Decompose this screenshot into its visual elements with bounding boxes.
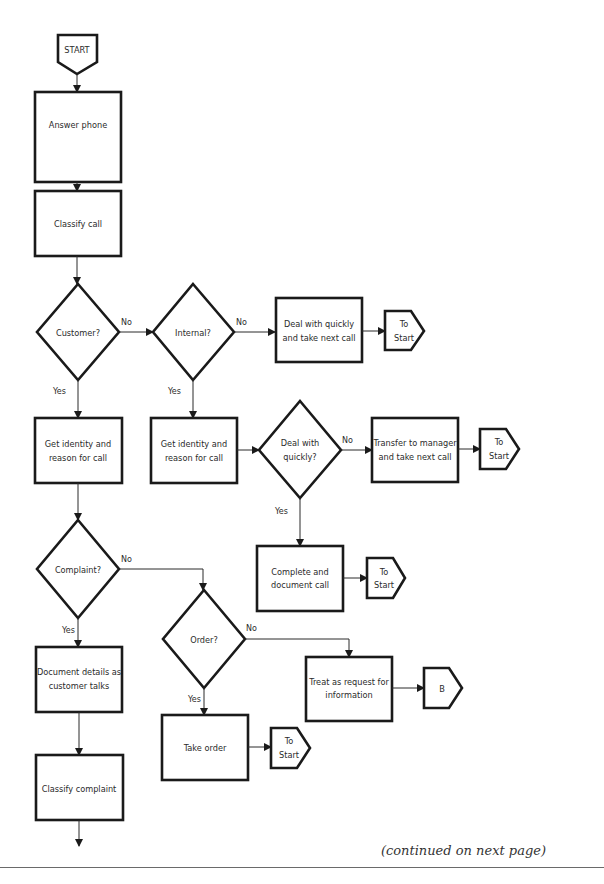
start-terminal: START: [58, 35, 97, 74]
edge-label-yes: Yes: [274, 507, 288, 516]
take-order-label: Take order: [183, 743, 227, 753]
classify-call-label: Classify call: [54, 219, 102, 229]
deal-quickly-q-line1: Deal with: [281, 438, 320, 448]
order-decision-label: Order?: [190, 635, 218, 645]
deal-quickly-line2: and take next call: [282, 333, 355, 343]
b-connector: B: [424, 668, 462, 708]
answer-phone-box: Answer phone: [35, 92, 121, 182]
deal-quickly-line1: Deal with quickly: [284, 319, 354, 329]
treat-request-box: Treat as request for information: [306, 657, 392, 721]
continued-note: (continued on next page): [381, 843, 546, 858]
get-identity-left-box: Get identity and reason for call: [35, 418, 122, 483]
classify-complaint-label: Classify complaint: [42, 784, 117, 794]
arrow-order-no: [245, 639, 349, 657]
flowchart-canvas: START Answer phone Classify call Custome…: [0, 0, 604, 884]
start-label: START: [64, 45, 90, 55]
edge-label-yes: Yes: [52, 387, 66, 396]
classify-call-box: Classify call: [35, 191, 121, 256]
to-start-1-line2: Start: [394, 333, 415, 343]
get-identity-mid-box: Get identity and reason for call: [151, 418, 237, 483]
to-start-connector-4: To Start: [271, 728, 310, 768]
complaint-decision-label: Complaint?: [55, 565, 101, 575]
b-connector-label: B: [439, 684, 445, 694]
edge-label-yes: Yes: [167, 387, 181, 396]
edge-label-no: No: [121, 318, 132, 327]
customer-decision: Customer?: [37, 284, 119, 380]
internal-decision-label: Internal?: [175, 328, 211, 338]
to-start-connector-2: To Start: [480, 429, 519, 469]
document-details-box: Document details as customer talks: [36, 647, 122, 712]
edge-label-yes: Yes: [61, 626, 75, 635]
deal-quickly-q-line2: quickly?: [283, 452, 316, 462]
to-start-connector-3: To Start: [367, 558, 405, 598]
get-identity-mid-line1: Get identity and: [161, 439, 227, 449]
get-identity-left-line2: reason for call: [49, 453, 107, 463]
deal-quickly-decision: Deal with quickly?: [259, 401, 341, 498]
complete-document-line2: document call: [271, 580, 329, 590]
edge-label-no: No: [246, 624, 257, 633]
treat-request-line2: information: [325, 690, 372, 700]
take-order-box: Take order: [162, 715, 248, 780]
complete-document-box: Complete and document call: [257, 546, 343, 611]
classify-complaint-box: Classify complaint: [36, 755, 123, 820]
to-start-3-line2: Start: [374, 580, 395, 590]
to-start-1-line1: To: [399, 319, 409, 329]
answer-phone-label: Answer phone: [49, 120, 107, 130]
get-identity-left-line1: Get identity and: [45, 439, 111, 449]
order-decision: Order?: [163, 590, 245, 688]
edge-label-no: No: [342, 436, 353, 445]
to-start-2-line1: To: [494, 437, 504, 447]
edge-label-no: No: [236, 318, 247, 327]
complaint-decision: Complaint?: [37, 520, 119, 618]
deal-quickly-box: Deal with quickly and take next call: [276, 298, 362, 362]
to-start-2-line2: Start: [489, 451, 510, 461]
to-start-connector-1: To Start: [385, 311, 424, 350]
to-start-4-line1: To: [284, 736, 294, 746]
treat-request-line1: Treat as request for: [308, 677, 389, 687]
transfer-manager-line1: Transfer to manager: [372, 438, 457, 448]
document-details-line1: Document details as: [37, 667, 121, 677]
edge-label-yes: Yes: [187, 695, 201, 704]
internal-decision: Internal?: [153, 284, 234, 380]
transfer-manager-box: Transfer to manager and take next call: [372, 418, 458, 482]
to-start-4-line2: Start: [279, 750, 300, 760]
transfer-manager-line2: and take next call: [378, 452, 451, 462]
customer-decision-label: Customer?: [56, 328, 100, 338]
document-details-line2: customer talks: [49, 681, 110, 691]
arrow-complaint-no: [119, 569, 203, 590]
get-identity-mid-line2: reason for call: [165, 453, 223, 463]
edge-label-no: No: [121, 555, 132, 564]
to-start-3-line1: To: [379, 567, 389, 577]
complete-document-line1: Complete and: [271, 567, 328, 577]
page-divider: [0, 867, 604, 868]
